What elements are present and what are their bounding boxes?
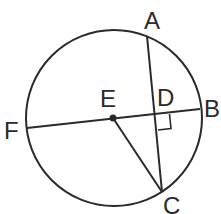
center-point-e <box>110 115 117 122</box>
circle-diagram: A B C D E F <box>0 0 221 214</box>
label-e: E <box>100 85 116 112</box>
radius-ec <box>113 118 162 192</box>
label-b: B <box>204 95 220 122</box>
label-c: C <box>163 192 180 214</box>
label-d: D <box>157 84 174 111</box>
right-angle-mark <box>158 114 171 130</box>
label-a: A <box>144 7 160 34</box>
label-f: F <box>4 117 19 144</box>
